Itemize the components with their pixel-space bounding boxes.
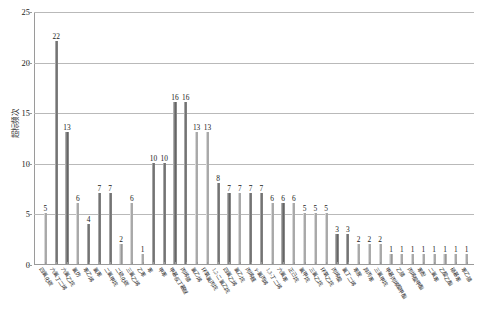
x-tick-mark (434, 262, 435, 265)
bar (195, 132, 198, 264)
bar-value-label: 7 (98, 185, 102, 192)
bar-value-label: 16 (182, 94, 189, 101)
x-tick-mark (391, 262, 392, 265)
x-tick-mark (121, 262, 122, 265)
x-tick-mark (467, 262, 468, 265)
bar-value-label: 1 (411, 246, 415, 253)
plot-area: 5221364772611010161613138777766655533222… (34, 12, 474, 265)
bar-value-label: 1 (465, 246, 469, 253)
y-tick-mark (28, 113, 32, 114)
y-tick-label: 0 (6, 261, 30, 270)
bar-value-label: 10 (150, 155, 157, 162)
y-axis-line (34, 12, 35, 265)
x-tick-mark (175, 262, 176, 265)
bar-value-label: 7 (227, 185, 231, 192)
x-tick-mark (45, 262, 46, 265)
bar (249, 193, 252, 264)
bar-value-label: 1 (389, 246, 393, 253)
bar-value-label: 2 (368, 236, 372, 243)
bar-value-label: 6 (292, 195, 296, 202)
bar-value-label: 7 (249, 185, 253, 192)
bar (76, 203, 79, 264)
x-axis-category-label: 甲苯 (156, 266, 168, 279)
y-tick-mark (28, 63, 32, 64)
bar (271, 203, 274, 264)
y-axis-ticks: 0510152025 (0, 0, 30, 334)
x-tick-mark (251, 262, 252, 265)
bar-value-label: 8 (216, 175, 220, 182)
bar-value-label: 13 (63, 124, 70, 131)
x-axis-category-label: 苯乙腈 (459, 266, 474, 283)
y-tick-label: 20 (6, 58, 30, 67)
bar (303, 213, 306, 264)
bar-value-label: 7 (238, 185, 242, 192)
gridline (34, 12, 474, 13)
bar-value-label: 2 (119, 236, 123, 243)
bar (163, 163, 166, 264)
y-tick-label: 10 (6, 160, 30, 169)
y-tick-mark (28, 164, 32, 165)
bar-value-label: 5 (44, 205, 48, 212)
x-tick-mark (402, 262, 403, 265)
bar (184, 102, 187, 264)
bar (217, 183, 220, 264)
bar (314, 213, 317, 264)
bar (98, 193, 101, 264)
bar (335, 234, 338, 264)
bar (87, 224, 90, 264)
x-tick-mark (283, 262, 284, 265)
x-tick-mark (456, 262, 457, 265)
bar-value-label: 7 (108, 185, 112, 192)
x-tick-mark (218, 262, 219, 265)
bar-value-label: 10 (160, 155, 167, 162)
bar-value-label: 1 (432, 246, 436, 253)
bar-value-label: 4 (87, 216, 91, 223)
bar (292, 203, 295, 264)
bar (325, 213, 328, 264)
bar-value-label: 1 (454, 246, 458, 253)
bar-value-label: 3 (335, 226, 339, 233)
bar (130, 203, 133, 264)
bar-value-label: 6 (76, 195, 80, 202)
bar-value-label: 13 (204, 124, 211, 131)
bar-value-label: 2 (378, 236, 382, 243)
x-tick-mark (305, 262, 306, 265)
x-tick-mark (110, 262, 111, 265)
x-tick-mark (369, 262, 370, 265)
x-tick-mark (380, 262, 381, 265)
y-tick-label: 15 (6, 109, 30, 118)
x-tick-mark (143, 262, 144, 265)
x-tick-mark (337, 262, 338, 265)
x-tick-mark (445, 262, 446, 265)
x-tick-mark (153, 262, 154, 265)
x-tick-mark (186, 262, 187, 265)
bar-value-label: 1 (141, 246, 145, 253)
bar-value-label: 3 (346, 226, 350, 233)
bar-value-label: 5 (314, 205, 318, 212)
x-tick-mark (89, 262, 90, 265)
bar (152, 163, 155, 264)
y-tick-label: 5 (6, 210, 30, 219)
bar-value-label: 1 (422, 246, 426, 253)
bar (346, 234, 349, 264)
bar (357, 244, 360, 264)
bar-value-label: 16 (171, 94, 178, 101)
bar (238, 193, 241, 264)
x-tick-mark (359, 262, 360, 265)
bar-value-label: 13 (193, 124, 200, 131)
bar (281, 203, 284, 264)
bar-value-label: 6 (270, 195, 274, 202)
bar-value-label: 5 (324, 205, 328, 212)
y-tick-label: 25 (6, 8, 30, 17)
bar (119, 244, 122, 264)
gridline (34, 113, 474, 114)
y-tick-mark (28, 265, 32, 266)
x-tick-mark (164, 262, 165, 265)
bar (55, 41, 58, 264)
bar-value-label: 1 (443, 246, 447, 253)
bar (109, 193, 112, 264)
x-tick-mark (326, 262, 327, 265)
gridline (34, 164, 474, 165)
y-tick-mark (28, 214, 32, 215)
bar (368, 244, 371, 264)
